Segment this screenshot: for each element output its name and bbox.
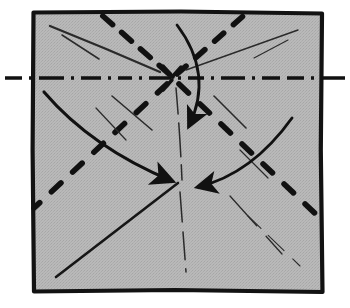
origami-diagram-canvas — [0, 0, 350, 308]
origami-diagram-container — [0, 0, 350, 308]
